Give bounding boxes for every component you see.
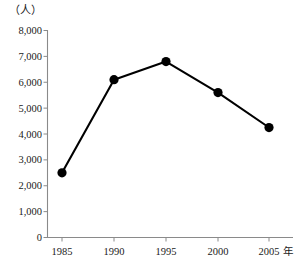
chart-plot-area: 01,0002,0003,0004,0005,0006,0007,0008,00… [0,0,299,268]
y-axis-tick-label: 2,000 [18,180,42,191]
data-point-marker [57,168,66,177]
y-axis-tick-label: 5,000 [18,103,42,114]
x-axis-tick-label: 1985 [52,246,73,257]
data-point-markers [57,57,273,177]
y-axis-tick-label: 8,000 [18,25,42,36]
y-axis-tick-label: 3,000 [18,154,42,165]
x-axis-tick-labels: 19851990199520002005 [52,246,280,257]
y-axis-tick-label: 0 [37,232,42,243]
data-series-line [62,62,269,173]
x-axis-suffix-label: 年 [283,245,293,257]
y-axis-tick-label: 6,000 [18,77,42,88]
x-axis-tick-label: 2000 [208,246,229,257]
data-point-marker [109,75,118,84]
y-axis-tick-label: 4,000 [18,129,42,140]
data-point-marker [264,123,273,132]
y-axis-tick-marks [44,31,48,238]
x-axis-tick-label: 1995 [156,246,177,257]
y-axis-tick-label: 7,000 [18,51,42,62]
x-axis-tick-label: 2005 [259,246,280,257]
x-axis-tick-marks [62,238,269,242]
data-point-marker [213,88,222,97]
line-chart: （人） 01,0002,0003,0004,0005,0006,0007,000… [0,0,299,268]
x-axis-tick-label: 1990 [104,246,125,257]
y-axis-tick-labels: 01,0002,0003,0004,0005,0006,0007,0008,00… [18,25,42,243]
y-axis-tick-label: 1,000 [18,206,42,217]
data-point-marker [161,57,170,66]
